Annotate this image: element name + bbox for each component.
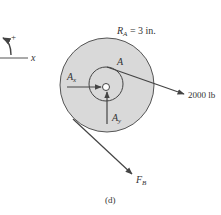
radius-label: RA = 3 in.	[116, 25, 156, 38]
point-a-label: A	[116, 56, 124, 67]
sign-convention: x +	[0, 32, 36, 63]
figure-caption: (d)	[105, 195, 116, 205]
rotation-sign: +	[11, 32, 16, 42]
pin	[103, 84, 110, 91]
free-body-diagram: x + RA = 3 in. A 2000 lb Ax Ay FB (d)	[0, 0, 221, 215]
rotation-arrow-icon	[3, 38, 11, 55]
applied-force-label: 2000 lb	[188, 90, 216, 100]
x-axis-label: x	[30, 52, 36, 63]
fb-label: FB	[135, 174, 147, 187]
